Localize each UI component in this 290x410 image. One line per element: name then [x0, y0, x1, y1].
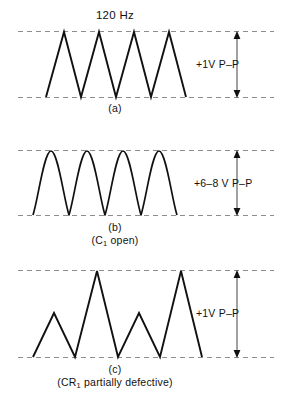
panel-a-caption: (a): [0, 102, 230, 114]
panel-c-sub-caption: (CR1 partially defective): [0, 376, 230, 388]
panel-c-sub-prefix: (CR: [57, 376, 76, 388]
panel-a-trace: [46, 32, 186, 97]
panel-b-sub-suffix: open): [107, 234, 138, 246]
panel-a-amplitude-label: +1V P–P: [196, 58, 239, 70]
panel-c-trace: [33, 271, 202, 357]
panel-c-caption: (c): [0, 363, 230, 375]
panel-b-sub-prefix: (C: [92, 234, 103, 246]
panel-c-sub-index: 1: [77, 381, 81, 390]
panel-b-amplitude-label: +6–8 V P–P: [194, 177, 252, 189]
panel-c-sub-suffix: partially defective): [81, 376, 173, 388]
waveform-figure: 120 Hz: [0, 0, 290, 410]
panel-b-caption: (b): [0, 221, 230, 233]
panel-b-sub-caption: (C1 open): [0, 234, 230, 246]
panel-c-amplitude-label: +1V P–P: [196, 307, 239, 319]
waveform-svg: [0, 0, 290, 410]
panel-b-trace: [33, 151, 177, 215]
panel-b-sub-index: 1: [103, 239, 107, 248]
